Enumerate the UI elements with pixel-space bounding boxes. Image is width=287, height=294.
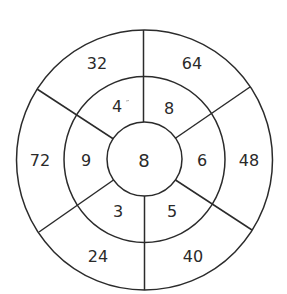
outer-bottom-right-value: 40 bbox=[183, 247, 203, 266]
outer-top-left-value: 32 bbox=[87, 54, 107, 73]
inner-left-value: 9 bbox=[81, 151, 91, 170]
outer-top-right-value: 64 bbox=[182, 54, 202, 73]
inner-top-right-value: 8 bbox=[164, 99, 174, 118]
inner-right-value: 6 bbox=[197, 151, 207, 170]
spoke-upper-left bbox=[37, 89, 114, 139]
spoke-lower-left bbox=[39, 180, 114, 232]
inner-top-left-value: 4 bbox=[112, 97, 122, 116]
spoke-upper-right bbox=[175, 87, 250, 139]
scan-mark bbox=[126, 101, 129, 102]
outer-bottom-left-value: 24 bbox=[88, 247, 108, 266]
inner-bottom-left-value: 3 bbox=[113, 202, 123, 221]
ring-diagram: 8 4 8 6 5 3 9 32 64 48 40 24 72 bbox=[0, 0, 287, 294]
center-value: 8 bbox=[138, 150, 149, 171]
outer-left-value: 72 bbox=[30, 151, 50, 170]
inner-bottom-right-value: 5 bbox=[167, 202, 177, 221]
outer-right-value: 48 bbox=[239, 151, 259, 170]
spoke-lower-right bbox=[176, 180, 253, 230]
